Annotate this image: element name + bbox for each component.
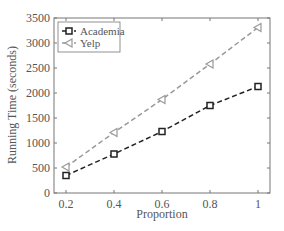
y-axis-label: Running Time (seconds) xyxy=(5,46,19,164)
x-axis-label: Proportion xyxy=(136,207,187,221)
square-marker xyxy=(255,84,261,90)
y-tick-label: 3500 xyxy=(26,11,50,25)
line-chart: 0.20.40.60.81050010001500200025003000350… xyxy=(0,0,284,231)
y-tick-label: 2000 xyxy=(26,86,50,100)
square-marker xyxy=(66,28,72,34)
x-tick-label: 0.2 xyxy=(59,197,74,211)
y-tick-label: 1000 xyxy=(26,136,50,150)
legend: AcademiaYelp xyxy=(58,22,125,52)
x-tick-label: 0.4 xyxy=(107,197,122,211)
square-marker xyxy=(63,173,69,179)
triangle-left-marker xyxy=(62,163,69,171)
legend-label: Yelp xyxy=(80,37,101,49)
y-tick-label: 2500 xyxy=(26,61,50,75)
y-tick-label: 1500 xyxy=(26,111,50,125)
y-tick-label: 3000 xyxy=(26,36,50,50)
square-marker xyxy=(111,151,117,157)
legend-label: Academia xyxy=(80,25,125,37)
y-tick-label: 0 xyxy=(44,186,50,200)
triangle-left-marker xyxy=(206,60,213,68)
x-tick-label: 1 xyxy=(255,197,261,211)
square-marker xyxy=(159,129,165,135)
triangle-left-marker xyxy=(110,129,117,137)
y-tick-label: 500 xyxy=(32,161,50,175)
square-marker xyxy=(207,103,213,109)
x-tick-label: 0.8 xyxy=(203,197,218,211)
